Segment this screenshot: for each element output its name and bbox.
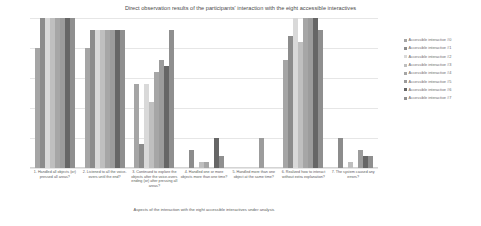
- chart-screenshot: Direct observation results of the partic…: [0, 0, 481, 226]
- legend-swatch-icon: [404, 72, 407, 75]
- bar: [70, 18, 75, 168]
- category-labels: 1. Handled all objects (or) pressed all …: [30, 170, 378, 204]
- bar: [318, 30, 323, 168]
- legend-item[interactable]: Accessible interactive #3: [404, 61, 479, 69]
- bar-group: [30, 18, 80, 168]
- category-label: 1. Handled all objects (or) pressed all …: [30, 170, 80, 204]
- bar-group: [279, 18, 329, 168]
- legend: Accessible interactive #0Accessible inte…: [404, 36, 479, 102]
- legend-label: Accessible interactive #3: [409, 63, 452, 67]
- legend-swatch-icon: [404, 39, 407, 42]
- legend-label: Accessible interactive #4: [409, 71, 452, 75]
- legend-label: Accessible interactive #7: [409, 96, 452, 100]
- bar-group: [80, 18, 130, 168]
- legend-swatch-icon: [404, 47, 407, 50]
- gridline: [30, 168, 378, 169]
- category-label: 2. Listened to all the voice-overs until…: [80, 170, 130, 204]
- legend-label: Accessible interactive #1: [409, 46, 452, 50]
- legend-swatch-icon: [404, 55, 407, 58]
- bar: [259, 138, 264, 168]
- legend-label: Accessible interactive #2: [409, 55, 452, 59]
- category-label: 4. Handled one or more objects more than…: [179, 170, 229, 204]
- legend-swatch-icon: [404, 88, 407, 91]
- bar-group: [229, 18, 279, 168]
- bar-group: [179, 18, 229, 168]
- bar: [189, 150, 194, 168]
- bar: [368, 156, 373, 168]
- legend-swatch-icon: [404, 80, 407, 83]
- plot-area: 0510152025: [30, 18, 378, 168]
- x-axis-title: Aspects of the interaction with the eigh…: [30, 207, 378, 212]
- legend-swatch-icon: [404, 97, 407, 100]
- legend-item[interactable]: Accessible interactive #0: [404, 36, 479, 44]
- bar-groups: [30, 18, 378, 168]
- legend-swatch-icon: [404, 64, 407, 67]
- bar-group: [328, 18, 378, 168]
- category-label: 7. The system caused any errors?: [328, 170, 378, 204]
- bar-group: [129, 18, 179, 168]
- legend-item[interactable]: Accessible interactive #6: [404, 86, 479, 94]
- legend-label: Accessible interactive #0: [409, 38, 452, 42]
- bar: [338, 138, 343, 168]
- bar: [120, 30, 125, 168]
- bar: [204, 162, 209, 168]
- bar: [169, 30, 174, 168]
- category-label: 6. Realized how to interact without extr…: [279, 170, 329, 204]
- legend-label: Accessible interactive #5: [409, 80, 452, 84]
- chart-title: Direct observation results of the partic…: [0, 4, 481, 12]
- legend-item[interactable]: Accessible interactive #4: [404, 69, 479, 77]
- legend-label: Accessible interactive #6: [409, 88, 452, 92]
- bar: [219, 156, 224, 168]
- legend-item[interactable]: Accessible interactive #5: [404, 77, 479, 85]
- legend-item[interactable]: Accessible interactive #7: [404, 94, 479, 102]
- category-label: 3. Continued to explore the objects afte…: [129, 170, 179, 204]
- category-label: 5. Handled more than one object at the s…: [229, 170, 279, 204]
- bar: [348, 162, 353, 168]
- legend-item[interactable]: Accessible interactive #1: [404, 44, 479, 52]
- legend-item[interactable]: Accessible interactive #2: [404, 53, 479, 61]
